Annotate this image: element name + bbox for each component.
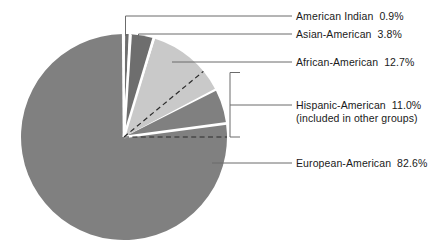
- label-asian-american-name: Asian-American: [296, 28, 372, 40]
- label-asian-american: Asian-American3.8%: [296, 28, 402, 41]
- label-african-american-value: 12.7%: [384, 56, 414, 68]
- label-hispanic-american-name: Hispanic-American: [296, 99, 386, 111]
- label-american-indian-name: American Indian: [296, 10, 373, 22]
- leader-line-american-indian: [126, 16, 293, 36]
- label-african-american: African-American12.7%: [296, 56, 414, 69]
- label-hispanic-american-note: (included in other groups): [296, 112, 421, 125]
- label-european-american: European-American82.6%: [296, 157, 427, 170]
- label-asian-american-value: 3.8%: [378, 28, 402, 40]
- label-hispanic-american: Hispanic-American11.0% (included in othe…: [296, 99, 421, 125]
- label-african-american-name: African-American: [296, 56, 378, 68]
- label-european-american-name: European-American: [296, 157, 391, 169]
- label-hispanic-american-value: 11.0%: [392, 99, 422, 111]
- label-american-indian: American Indian0.9%: [296, 10, 404, 23]
- pie-chart-figure: American Indian0.9% Asian-American3.8% A…: [0, 0, 447, 242]
- label-american-indian-value: 0.9%: [379, 10, 403, 22]
- label-european-american-value: 82.6%: [397, 157, 427, 169]
- leader-line-asian-american: [139, 34, 293, 40]
